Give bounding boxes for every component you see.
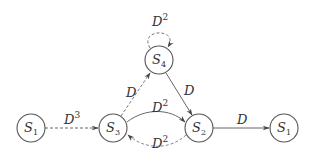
svg-text:D: D	[183, 83, 195, 98]
edge-s1-to-s3: D3	[45, 110, 98, 128]
edge-s2-to-s1: D	[213, 112, 269, 128]
edge-s3-to-s4: D	[121, 73, 150, 116]
svg-text:D: D	[125, 85, 137, 100]
svg-text:D2: D2	[151, 134, 168, 151]
node-s2: S2	[185, 114, 213, 142]
state-diagram: D3 D D2 D D2 D2 D S1 S3 S2 S1	[0, 0, 312, 154]
edge-s4-self-loop: D2	[148, 12, 170, 48]
edge-s2-to-s3: D2	[128, 134, 186, 151]
node-s1-right: S1	[270, 114, 298, 142]
svg-text:D3: D3	[63, 110, 80, 127]
node-s3: S3	[99, 114, 127, 142]
node-s1-left: S1	[17, 114, 45, 142]
edge-s3-to-s2: D2	[127, 98, 185, 122]
node-s4: S4	[145, 46, 173, 74]
svg-text:D: D	[236, 112, 248, 127]
svg-text:D2: D2	[151, 12, 168, 29]
edge-s4-to-s2: D	[166, 73, 195, 115]
